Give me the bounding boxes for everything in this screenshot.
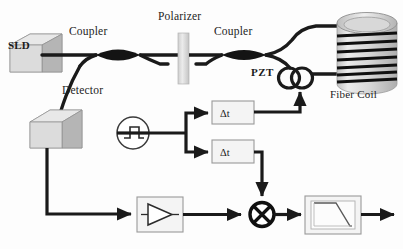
mixer-block[interactable]: [250, 203, 274, 227]
amplifier-block[interactable]: [137, 197, 183, 232]
delay-block-1[interactable]: [212, 101, 254, 124]
delay-block-2-label: Δt: [220, 147, 230, 158]
wire-detector-to-amplifier: [47, 148, 131, 214]
pzt-label: PZT: [251, 66, 274, 78]
delay-block-1-label: Δt: [220, 108, 230, 119]
coupler-1-label: Coupler: [69, 25, 107, 37]
square-wave-oscillator: [117, 117, 149, 149]
wire-delay1-to-pzt: [254, 92, 300, 112]
coupler-1: [80, 50, 178, 67]
delay-block-2[interactable]: [212, 140, 254, 163]
detector-block: [30, 110, 82, 148]
sld-label: SLD: [8, 39, 30, 51]
wire-branch-to-delay1: [186, 113, 208, 133]
detector-label: Detector: [62, 84, 103, 96]
low-pass-filter-block[interactable]: [305, 196, 361, 234]
pzt-fiber-loops: [279, 68, 313, 88]
fiber-coupler2-to-coil-top: [266, 26, 340, 55]
coupler-2: [196, 50, 266, 64]
fiber-coil-cylinder: [337, 13, 397, 95]
wire-delay2-to-mixer: [254, 152, 262, 196]
fiber-coil-label: Fiber Coil: [330, 88, 377, 100]
diagram-canvas: SLD Coupler Polarizer Coupler Detector P…: [0, 0, 403, 249]
coupler-2-label: Coupler: [214, 25, 252, 37]
fog-schematic: [0, 0, 403, 249]
wire-branch-to-delay2: [186, 133, 208, 152]
polarizer-label: Polarizer: [158, 10, 201, 22]
polarizer-element: [178, 33, 189, 84]
